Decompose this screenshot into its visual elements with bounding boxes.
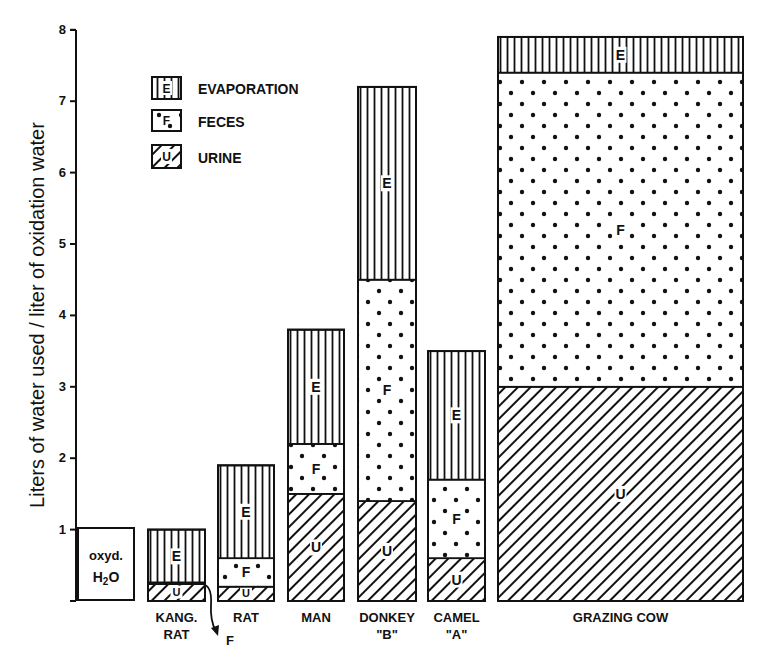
segment-key-label: E [241,504,250,520]
bar-rat: UFE [218,465,274,601]
stacked-bar-chart: 12345678 Liters of water used / liter of… [0,0,762,658]
segment-key-label: U [615,486,625,502]
x-category-label: MAN [301,610,331,625]
y-tick-label: 3 [59,379,66,394]
y-tick-label: 8 [59,22,66,37]
annotation-f: F [226,633,234,648]
bar-camel-a: UFE [428,351,485,601]
legend-label-feces: FECES [198,114,245,130]
x-category-label: GRAZING COW [573,610,669,625]
legend-label-evaporation: EVAPORATION [198,81,299,97]
segment-key-label: U [382,543,392,559]
segment-key-label: U [451,572,461,588]
segment-key-label: E [172,548,181,564]
y-tick-label: 1 [59,522,66,537]
y-tick-label: 4 [59,307,67,322]
y-axis-label: Liters of water used / liter of oxidatio… [26,122,48,508]
bar-kang-rat: UE [148,530,205,601]
reference-label-line1: oxyd. [89,548,123,563]
x-category-label: RAT [164,627,190,642]
bar-grazing-cow: UFE [498,37,743,601]
segment-key-label: F [383,382,392,398]
segment-key-label: U [311,539,321,555]
legend: E EVAPORATION F FECES U URINE [152,77,299,168]
y-tick-label: 2 [59,450,66,465]
segment-key-label: U [173,586,181,598]
legend-item-evaporation: E EVAPORATION [152,77,299,99]
legend-label-urine: URINE [198,150,242,166]
x-category-label: KANG. [156,610,198,625]
bar-donkey-b: UFE [358,87,416,601]
svg-text:U: U [162,150,171,164]
segment-key-label: F [452,511,461,527]
svg-text:F: F [163,114,170,128]
segment-key-label: F [242,564,251,580]
y-tick-label: 6 [59,165,66,180]
legend-item-urine: U URINE [152,145,242,168]
y-tick-label: 5 [59,236,66,251]
segment-key-label: U [242,587,250,599]
x-category-label: CAMEL [433,610,479,625]
x-category-label: DONKEY [359,610,415,625]
y-axis: 12345678 [59,22,76,601]
reference-oxyd-h2o-box: oxyd. H2O [78,528,134,600]
svg-text:E: E [162,82,170,96]
x-category-label: "B" [376,627,398,642]
segment-key-label: E [382,175,391,191]
segment-key-label: F [312,461,321,477]
legend-item-feces: F FECES [152,110,245,131]
x-category-label: "A" [446,627,468,642]
segment-key-label: E [616,47,625,63]
x-category-label: RAT [233,610,259,625]
bar-man: UFE [288,330,344,601]
y-tick-label: 7 [59,93,66,108]
segment-key-label: F [616,222,625,238]
segment-key-label: E [452,407,461,423]
segment-key-label: E [311,379,320,395]
